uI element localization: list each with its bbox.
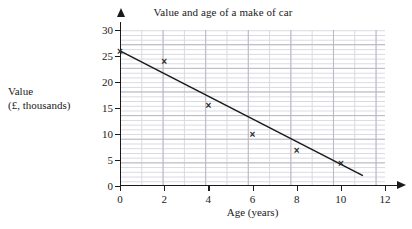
x-tick-label-4: 4 bbox=[206, 193, 212, 205]
data-point-marker: × bbox=[248, 130, 257, 139]
x-tick-8 bbox=[297, 186, 298, 191]
y-axis-title: Value (£, thousands) bbox=[8, 84, 70, 112]
x-tick-0 bbox=[120, 186, 121, 191]
data-point-marker: × bbox=[336, 158, 345, 167]
y-tick-label-30: 30 bbox=[102, 24, 113, 36]
x-tick-4 bbox=[208, 186, 209, 191]
x-tick-10 bbox=[341, 186, 342, 191]
y-tick-label-5: 5 bbox=[108, 154, 114, 166]
data-point-marker: × bbox=[116, 46, 125, 55]
y-tick-label-10: 10 bbox=[102, 128, 113, 140]
y-tick-label-0: 0 bbox=[108, 180, 114, 192]
x-tick-label-6: 6 bbox=[250, 193, 256, 205]
y-axis-title-line-2: (£, thousands) bbox=[8, 98, 70, 112]
x-axis-title: Age (years) bbox=[120, 206, 385, 218]
data-point-marker: × bbox=[292, 145, 301, 154]
x-axis-arrow-icon bbox=[397, 181, 406, 189]
x-tick-label-0: 0 bbox=[117, 193, 123, 205]
x-tick-label-12: 12 bbox=[380, 193, 391, 205]
x-tick-12 bbox=[385, 186, 386, 191]
y-tick-label-15: 15 bbox=[102, 102, 113, 114]
data-markers: ×××××× bbox=[120, 30, 385, 186]
y-tick-label-25: 25 bbox=[102, 50, 113, 62]
x-tick-label-8: 8 bbox=[294, 193, 300, 205]
x-tick-2 bbox=[164, 186, 165, 191]
data-point-marker: × bbox=[204, 101, 213, 110]
chart-title: Value and age of a make of car bbox=[0, 6, 412, 18]
data-point-marker: × bbox=[160, 57, 169, 66]
y-axis-arrow-icon bbox=[117, 8, 125, 17]
x-tick-label-2: 2 bbox=[161, 193, 167, 205]
plot-area: 051015202530 024681012 ×××××× bbox=[120, 30, 385, 186]
y-axis-title-line-1: Value bbox=[8, 84, 70, 98]
x-tick-6 bbox=[253, 186, 254, 191]
chart-figure: Value and age of a make of car Value (£,… bbox=[0, 0, 412, 229]
x-tick-label-10: 10 bbox=[335, 193, 346, 205]
y-tick-label-20: 20 bbox=[102, 76, 113, 88]
